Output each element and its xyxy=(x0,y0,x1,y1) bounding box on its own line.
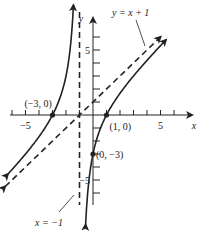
point-label: (0, −3) xyxy=(96,149,123,161)
y-tick-label: −5 xyxy=(79,175,90,186)
rational-function-graph: −555−5xy(−3, 0)(1, 0)(0, −3)y = x + 1x =… xyxy=(0,0,205,238)
x-tick-label: 5 xyxy=(158,120,163,131)
y-tick-label: 5 xyxy=(85,45,90,56)
data-point xyxy=(90,151,95,156)
vertical-asymptote-leader xyxy=(59,195,74,212)
slant-asymptote-label: y = x + 1 xyxy=(111,7,149,18)
function-branch-right xyxy=(86,40,166,225)
slant-asymptote-leader xyxy=(136,20,145,46)
point-label: (1, 0) xyxy=(110,121,132,133)
x-tick-label: −5 xyxy=(20,120,31,131)
slant-asymptote xyxy=(5,37,160,187)
x-axis-label: x xyxy=(191,120,197,131)
data-point xyxy=(50,112,55,117)
vertical-asymptote-label: x = −1 xyxy=(34,217,63,228)
data-point xyxy=(104,112,109,117)
point-label: (−3, 0) xyxy=(25,98,52,110)
function-branch-left xyxy=(8,5,73,174)
y-axis-label: y xyxy=(78,13,84,24)
